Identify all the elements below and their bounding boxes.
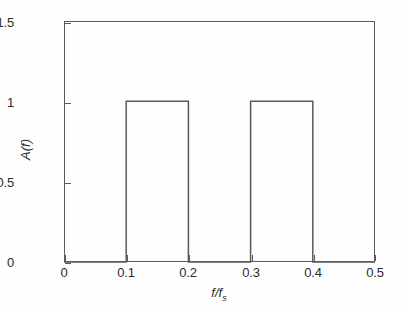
y-tick-label-1.5: 1.5 bbox=[0, 15, 14, 30]
x-tick-0.1 bbox=[127, 255, 128, 261]
x-axis-label: f/fs bbox=[211, 285, 226, 303]
y-tick-label-0: 0 bbox=[7, 255, 14, 270]
x-tick-0.2 bbox=[189, 255, 190, 261]
x-tick-label-0.4: 0.4 bbox=[304, 265, 321, 280]
x-tick-0.3 bbox=[252, 255, 253, 261]
x-tick-0.4 bbox=[314, 255, 315, 261]
x-tick-label-0: 0 bbox=[60, 265, 67, 280]
y-tick-0.5 bbox=[65, 183, 71, 184]
x-axis-label-subscript: s bbox=[222, 293, 227, 303]
x-tick-label-0.1: 0.1 bbox=[117, 265, 134, 280]
y-tick-1.5 bbox=[65, 23, 71, 24]
x-tick-label-0.5: 0.5 bbox=[366, 265, 383, 280]
figure-canvas: 0 0.1 0.2 0.3 0.4 0.5 0 0.5 1 1.5 f/fs A… bbox=[0, 0, 403, 310]
y-tick-1 bbox=[65, 103, 71, 104]
x-axis-label-main: f/f bbox=[211, 285, 222, 300]
x-tick-0.5 bbox=[375, 255, 376, 261]
x-tick-label-0.2: 0.2 bbox=[179, 265, 196, 280]
y-tick-label-1: 1 bbox=[7, 95, 14, 110]
x-tick-0 bbox=[65, 255, 66, 261]
plot-area bbox=[64, 21, 375, 262]
x-tick-label-0.3: 0.3 bbox=[242, 265, 259, 280]
y-tick-0 bbox=[65, 263, 71, 264]
y-axis-label: A(f) bbox=[18, 137, 33, 163]
y-tick-label-0.5: 0.5 bbox=[0, 175, 14, 190]
